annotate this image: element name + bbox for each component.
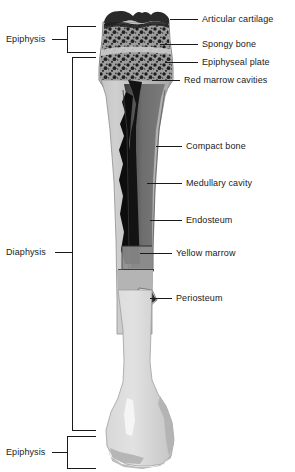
structure-label-epiphyseal-plate: Epiphyseal plate: [202, 57, 270, 67]
bracket-diaphysis: [55, 57, 96, 430]
structure-label-endosteum: Endosteum: [186, 215, 232, 225]
region-label-diaphysis: Diaphysis: [6, 247, 46, 257]
structure-label-spongy-bone: Spongy bone: [202, 39, 256, 49]
structure-label-red-marrow-cavities: Red marrow cavities: [184, 75, 267, 85]
structure-label-articular-cartilage: Articular cartilage: [202, 14, 273, 24]
region-label-epiphysis-distal: Epiphysis: [6, 447, 45, 457]
structure-label-medullary-cavity: Medullary cavity: [186, 178, 252, 188]
bone-diagram-figure: Epiphysis Diaphysis Epiphysis Articular …: [0, 0, 295, 472]
structure-label-compact-bone: Compact bone: [186, 141, 246, 151]
bracket-epiphysis-proximal: [52, 26, 96, 52]
structure-label-periosteum: Periosteum: [176, 293, 223, 303]
structure-label-yellow-marrow: Yellow marrow: [176, 248, 236, 258]
bracket-epiphysis-distal: [52, 436, 96, 468]
region-label-epiphysis-proximal: Epiphysis: [6, 34, 45, 44]
annotation-lines: [0, 0, 295, 472]
